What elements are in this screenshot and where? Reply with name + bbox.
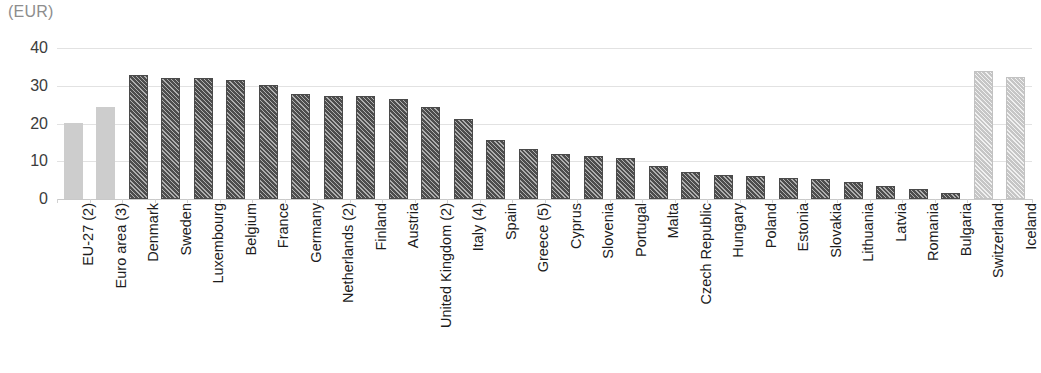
bar [681,172,700,199]
category-label: Germany [307,203,326,263]
category-label: Estonia [794,203,813,251]
bar [779,178,798,199]
category-label: Switzerland [989,203,1008,278]
bar [226,80,245,199]
category-label: Slovenia [599,203,618,259]
bar [324,96,343,199]
y-axis-tick-label: 0 [0,190,48,208]
bar [746,176,765,199]
bar [584,156,603,199]
bar [714,175,733,199]
category-label: Italy (4) [469,203,488,251]
bar [421,107,440,199]
category-label: Spain [502,203,521,240]
category-label: Greece (5) [534,203,553,272]
bar [649,166,668,199]
category-label: Netherlands (2) [339,203,358,303]
category-label: EU-27 (2) [79,203,98,266]
category-label: Iceland [1022,203,1041,250]
category-label: Luxembourg [209,203,228,284]
bar [811,179,830,199]
category-label: Denmark [144,203,163,262]
category-label: Hungary [729,203,748,258]
bar [486,140,505,199]
bar [291,94,310,199]
bar [974,71,993,199]
y-axis-tick-label: 30 [0,77,48,95]
y-axis-tick-label: 10 [0,152,48,170]
bar [844,182,863,199]
bar [876,186,895,199]
category-label: Romania [924,203,943,261]
bar [129,75,148,199]
bar [64,123,83,199]
bar [194,78,213,199]
bar [454,119,473,199]
category-label: Bulgaria [957,203,976,256]
bar [909,189,928,199]
category-label: Lithuania [859,203,878,262]
category-label: Austria [404,203,423,248]
bar [96,107,115,199]
category-label: Slovakia [827,203,846,258]
category-label: Finland [372,203,391,251]
category-label: Sweden [177,203,196,255]
bar [616,158,635,199]
bar [356,96,375,199]
category-label: United Kingdom (2) [437,203,456,328]
bar [259,85,278,199]
category-label: Portugal [632,203,651,257]
bar [551,154,570,199]
bar [1006,77,1025,199]
y-axis-tick-label: 40 [0,39,48,57]
category-label: Cyprus [567,203,586,249]
category-label: France [274,203,293,248]
x-axis-category-labels: EU-27 (2)Euro area (3)DenmarkSwedenLuxem… [57,203,1032,363]
y-axis-labels: 010203040 [0,48,48,199]
category-label: Latvia [892,203,911,242]
category-label: Euro area (3) [112,203,131,288]
bar-series [57,48,1032,199]
y-axis-tick-label: 20 [0,115,48,133]
bar [519,149,538,199]
category-label: Malta [664,203,683,238]
bar [161,78,180,199]
category-label: Belgium [242,203,261,255]
bar [389,99,408,199]
category-label: Czech Republic [697,203,716,305]
category-label: Poland [762,203,781,248]
unit-label: (EUR) [8,3,53,21]
